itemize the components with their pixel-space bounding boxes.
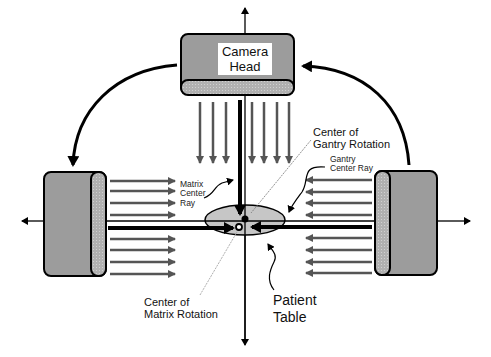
gantry-center-ray-line2: Center Ray: [330, 164, 373, 173]
patient-table-line2: Table: [273, 309, 317, 326]
gantry-center-ray-label: Gantry Center Ray: [330, 155, 373, 174]
matrix-center-ray-label: Matrix Center Ray: [180, 180, 206, 208]
patient-table-label: Patient Table: [273, 292, 317, 326]
camera-head-left: [44, 172, 106, 276]
camera-head-label-line2: Head: [218, 59, 272, 74]
center-of-matrix-rotation-label: Center of Matrix Rotation: [144, 296, 218, 320]
matrix-rotation-line2: Matrix Rotation: [144, 308, 218, 320]
camera-head-right: [375, 171, 437, 275]
patient-table-line1: Patient: [273, 292, 317, 309]
center-of-gantry-rotation-dot: [242, 216, 249, 223]
matrix-center-ray-leader: [204, 180, 233, 198]
gantry-center-ray-leader: [289, 167, 325, 212]
camera-head-label-line1: Camera: [218, 44, 272, 59]
matrix-rotation-line1: Center of: [144, 296, 218, 308]
center-of-gantry-rotation-label: Center of Gantry Rotation: [313, 126, 390, 150]
gantry-rotation-line1: Center of: [313, 126, 390, 138]
patient-table-leader: [268, 244, 275, 290]
matrix-center-ray-line3: Ray: [180, 199, 206, 208]
camera-head-label: Camera Head: [218, 43, 272, 75]
gantry-rotation-line2: Gantry Rotation: [313, 138, 390, 150]
matrix-rotation-leader: [200, 232, 237, 295]
rotation-arrow-top-to-left: [73, 65, 177, 165]
center-of-matrix-rotation-circle: [236, 224, 242, 230]
gantry-rotation-leader: [251, 140, 311, 213]
